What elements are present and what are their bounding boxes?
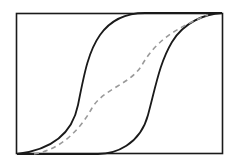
middle-dashed-curve: [34, 15, 208, 154]
hysteresis-diagram: [0, 0, 230, 164]
left-branch-curve: [17, 13, 222, 154]
diagram-frame: [17, 14, 223, 154]
right-branch-curve: [17, 13, 222, 154]
